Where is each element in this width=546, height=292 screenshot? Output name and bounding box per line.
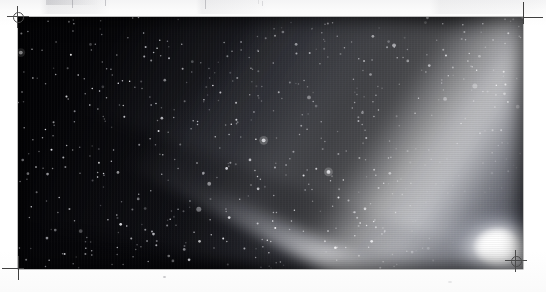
scan-tick: [72, 0, 73, 8]
crop-horizontal-line: [523, 17, 543, 18]
crop-mark-bottom-left: [2, 252, 32, 282]
registration-circle: [13, 12, 24, 23]
scan-tick: [262, 1, 263, 6]
dust-speck: [448, 281, 452, 283]
registration-mark-top-left: [7, 6, 29, 28]
scanner-streak-artifacts: [0, 0, 546, 14]
scan-tick: [258, 0, 259, 4]
registration-circle: [511, 256, 522, 267]
crop-vertical-line: [523, 2, 524, 24]
scan-tick: [205, 0, 206, 9]
crop-horizontal-line: [2, 268, 24, 269]
comet-photograph: [18, 17, 523, 269]
registration-mark-bottom-right: [505, 250, 527, 272]
scanned-page: [0, 0, 546, 292]
scan-tick: [105, 0, 106, 6]
dust-speck: [163, 276, 166, 278]
crop-mark-top-right: [505, 2, 535, 28]
